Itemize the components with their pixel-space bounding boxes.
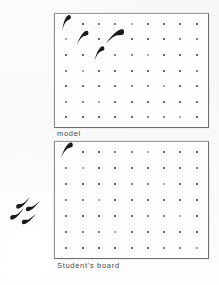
pennant-icon[interactable] xyxy=(60,14,73,30)
piece-layer-student xyxy=(55,142,208,258)
pennant-icon[interactable] xyxy=(77,29,90,46)
board-student-caption: Student's board xyxy=(57,261,120,270)
board-model-caption: model xyxy=(57,129,81,138)
board-student[interactable] xyxy=(54,141,209,259)
pennant-icon[interactable] xyxy=(94,46,106,61)
board-model[interactable] xyxy=(54,13,209,128)
pennant-icon[interactable] xyxy=(21,210,36,228)
piece-layer-model xyxy=(55,14,208,127)
diagram-canvas: model Student's board xyxy=(0,0,219,285)
spare-pennant-pile[interactable] xyxy=(9,194,45,230)
pennant-icon[interactable] xyxy=(60,142,73,159)
pennant-icon[interactable] xyxy=(105,25,125,49)
